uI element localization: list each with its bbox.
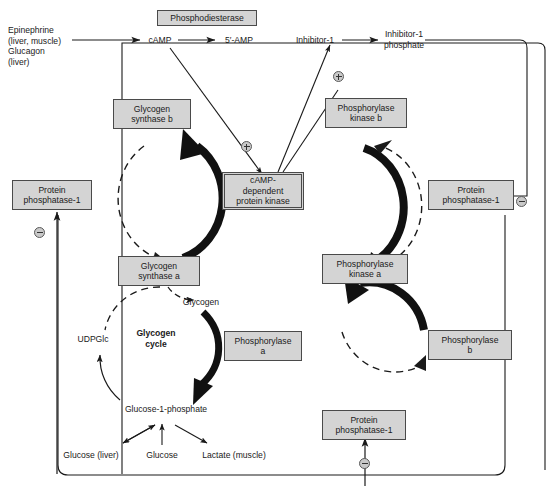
label-glucose-liver: Glucose (liver) [58,450,124,461]
label-hormones: Epinephrine (liver, muscle) Glucagon (li… [8,25,86,67]
label-glucose: Glucose [134,450,190,461]
box-phosphorylase-kinase-a: Phosphorylase kinase a [322,254,408,284]
minus-sign-icon-phosphatase-right [516,196,527,207]
label-glycogen: Glycogen [175,297,227,308]
box-protein-phosphatase-1-bottom: Protein phosphatase-1 [322,410,406,440]
arc-phosphorylase-b-to-a [360,282,424,330]
label-glucose-1-phosphate: Glucose-1-phosphate [106,404,226,415]
box-camp-dependent-protein-kinase: cAMP- dependent protein kinase [222,172,304,210]
arc-glycogen-synthase-b-to-a [118,146,160,259]
label-inhibitor-1: Inhibitor-1 [288,35,342,46]
box-glycogen-synthase-a: Glycogen synthase a [118,256,200,286]
arc-synthase-a-to-udpglc [105,287,160,330]
arrow-g1p-to-lactate [175,425,207,443]
label-inhibitor-1-phosphate: Inhibitor-1 phosphate [378,29,430,50]
box-protein-phosphatase-1-right: Protein phosphatase-1 [428,180,514,210]
box-phosphodiesterase: Phosphodiesterase [157,10,257,26]
diagram-canvas [0,0,558,488]
arrowhead-phosphorylase-b [414,355,426,371]
label-camp: cAMP [140,35,180,46]
box-phosphorylase-kinase-b: Phosphorylase kinase b [325,98,407,128]
box-glycogen-synthase-b: Glycogen synthase b [113,99,191,129]
arrow-glucose-liver-to-g1p [123,425,155,443]
arrowhead-g1p [193,378,213,405]
label-5-amp: 5′-AMP [215,35,263,46]
label-lactate-muscle: Lactate (muscle) [196,450,272,461]
label-udpglc: UDPGlc [68,334,118,345]
plus-sign-icon-inhibitor-1 [333,71,344,82]
minus-sign-icon-phosphatase-left [34,227,45,238]
arc-phos-kinase-b-to-a [364,148,404,258]
label-glycogen-cycle: Glycogen cycle [128,328,184,349]
arrow-kinase-to-inhibitor1 [278,45,330,172]
arc-glycogen-synthase-a-to-b [183,146,223,258]
box-protein-phosphatase-1-left: Protein phosphatase-1 [12,180,92,210]
box-phosphorylase-b: Phosphorylase b [428,330,512,360]
arc-glycogen-to-g1p [201,312,219,385]
glycogen-regulation-diagram: Epinephrine (liver, muscle) Glucagon (li… [0,0,558,488]
plus-sign-icon-camp-kinase [241,141,252,152]
box-phosphorylase-a: Phosphorylase a [224,331,302,361]
minus-sign-icon-phosphatase-bottom [359,458,370,469]
arrow-inhibitor1p-to-phosphatase-right [425,40,527,196]
arrow-g1p-to-udpglc [100,355,120,400]
arc-phosphorylase-a-to-b [342,332,420,372]
